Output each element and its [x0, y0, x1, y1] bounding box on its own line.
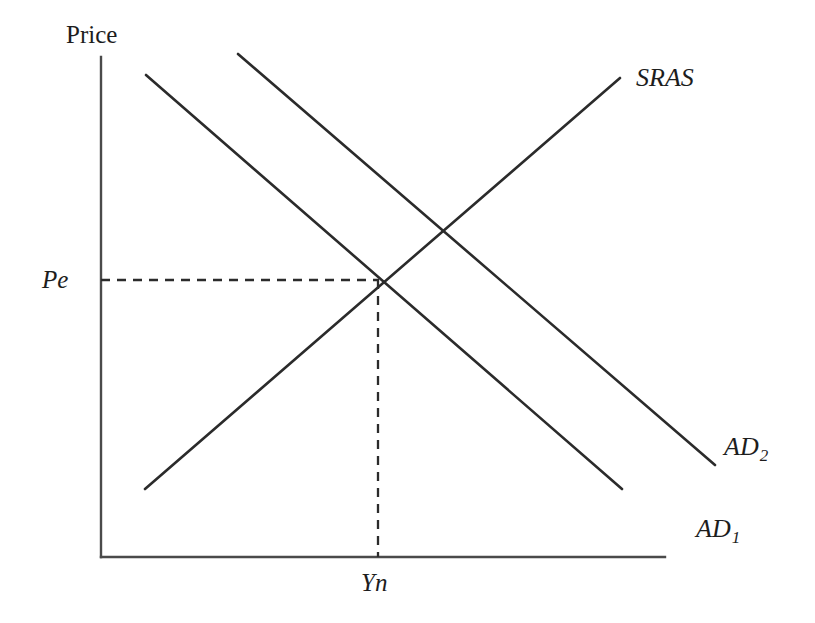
- ad1-curve-label: AD1: [696, 516, 739, 542]
- sras-curve-label: SRAS: [636, 65, 694, 91]
- y-axis-label: Price: [66, 22, 117, 47]
- ad2-label-base: AD: [724, 432, 759, 461]
- ad-as-diagram: Price SRAS AD2 AD1 Pe Yn: [0, 0, 815, 623]
- ad2-curve-label: AD2: [724, 434, 767, 460]
- diagram-canvas: [0, 0, 815, 623]
- equilibrium-price-label: Pe: [42, 267, 68, 292]
- ad2-label-subscript: 2: [760, 446, 769, 465]
- ad2-curve: [238, 54, 715, 465]
- sras-curve: [145, 78, 620, 489]
- equilibrium-output-label: Yn: [361, 570, 387, 595]
- ad1-label-subscript: 1: [732, 528, 741, 547]
- ad1-label-base: AD: [696, 514, 731, 543]
